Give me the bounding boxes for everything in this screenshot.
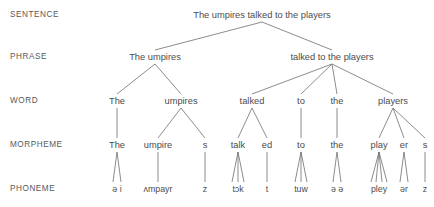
phoneme-node-f7: ə ə [331,184,343,194]
morpheme-node-m6: to [297,140,305,150]
morpheme-play-to-phoneme-2 [376,152,379,182]
phoneme-node-f1: ə i [112,184,121,194]
phrase2-to-word-talked [252,64,332,94]
word-players-to-morpheme-s [393,108,425,138]
row-label-word: WORD [10,96,38,105]
morpheme-the-to-phoneme-1 [113,152,117,182]
phrase2-to-word-the [332,64,337,94]
phoneme-node-f9: ər [400,184,408,194]
morpheme-node-m2: umpire [144,140,172,150]
phoneme-node-f6: tuw [294,184,308,194]
morpheme-the2-to-phoneme-1 [333,152,337,182]
word-node-w5: the [331,96,344,106]
row-label-sentence: SENTENCE [10,10,59,19]
morpheme-node-m9: er [400,140,408,150]
phoneme-node-f5: t [266,184,268,194]
morpheme-node-m7: the [331,140,344,150]
phoneme-node-f10: z [423,184,427,194]
sentence-to-phrase-1 [155,22,262,50]
word-node-w2: umpires [164,96,197,106]
phrase2-to-word-to [301,64,332,94]
morpheme-the2-to-phoneme-2 [337,152,341,182]
morpheme-node-m10: s [423,140,428,150]
morpheme-play-to-phoneme-3 [379,152,382,182]
tree-edges-layer [0,0,434,207]
phrase-node-p2: talked to the players [290,52,373,62]
word-node-w3: talked [240,96,265,106]
morpheme-node-m3: s [203,140,208,150]
morpheme-play-to-phoneme-4 [379,152,387,182]
morpheme-node-m1: The [109,140,125,150]
morpheme-to-to-phoneme-3 [301,152,307,182]
phrase2-to-word-players [332,64,393,94]
morpheme-to-to-phoneme-1 [295,152,301,182]
word-node-w6: players [378,96,408,106]
word-umpires-to-morpheme-s [181,108,205,138]
morpheme-node-m8: play [370,140,387,150]
linguistic-hierarchy-diagram: SENTENCEPHRASEWORDMORPHEMEPHONEME The um… [0,0,434,207]
phoneme-node-f2: ʌmpayr [144,184,173,194]
word-talked-to-morpheme-talk [238,108,252,138]
morpheme-node-m4: talk [231,140,245,150]
word-players-to-morpheme-er [393,108,404,138]
sentence-node-s1: The umpires talked to the players [193,10,330,20]
phrase-node-p1: The umpires [129,52,181,62]
morpheme-er-to-phoneme-2 [404,152,408,182]
morpheme-er-to-phoneme-1 [400,152,404,182]
sentence-to-phrase-2 [262,22,332,50]
morpheme-the-to-phoneme-2 [117,152,121,182]
morpheme-node-m5: ed [262,140,272,150]
morpheme-play-to-phoneme-1 [371,152,379,182]
word-node-w1: The [109,96,125,106]
phoneme-node-f4: tɔk [232,184,243,194]
word-node-w4: to [297,96,305,106]
phoneme-node-f8: pley [371,184,387,194]
phrase1-to-word-umpires [155,64,181,94]
phoneme-node-f3: z [203,184,207,194]
morpheme-talk-to-phoneme-1 [232,152,238,182]
row-label-morpheme: MORPHEME [10,140,63,149]
word-talked-to-morpheme-ed [252,108,267,138]
row-label-phrase: PHRASE [10,52,47,61]
word-players-to-morpheme-play [379,108,393,138]
word-umpires-to-morpheme-umpire [158,108,181,138]
morpheme-talk-to-phoneme-3 [238,152,244,182]
row-label-phoneme: PHONEME [10,184,55,193]
phrase1-to-word-the [117,64,155,94]
